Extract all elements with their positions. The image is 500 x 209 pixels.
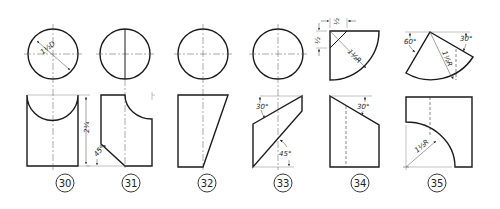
figure-label-35: 35 bbox=[431, 178, 444, 189]
drawing-sheet: 1½D 2¼ 30 45° 31 bbox=[0, 0, 500, 209]
figure-label-30: 30 bbox=[59, 178, 72, 189]
figure-31: 45° 31 bbox=[86, 29, 155, 192]
angle-right-dim-35: 30° bbox=[460, 35, 472, 43]
angle-bottom-dim-33: 45° bbox=[279, 150, 291, 158]
top-view-32 bbox=[174, 24, 232, 170]
front-view-35: 1½R bbox=[403, 97, 472, 170]
angle-left-dim-35: 60° bbox=[404, 38, 416, 46]
angle-dim-34: 30° bbox=[357, 103, 369, 111]
top-view-33 bbox=[249, 24, 307, 170]
figure-label-31: 31 bbox=[125, 178, 138, 189]
figure-35: 60° 30° 1½R 1½R 35 bbox=[403, 32, 473, 192]
figure-34: 1½R ½ ½ 30° 34 bbox=[314, 18, 379, 192]
figure-30: 1½D 2¼ 30 bbox=[24, 24, 91, 192]
offset-y-dim-34: ½ bbox=[314, 37, 322, 44]
height-dim-30: 2¼ bbox=[83, 122, 91, 133]
top-view-35: 60° 30° 1½R bbox=[404, 32, 473, 80]
top-view-30: 1½D bbox=[24, 24, 82, 170]
front-view-31: 45° bbox=[86, 92, 155, 166]
front-view-30: 2¼ bbox=[27, 95, 91, 166]
offset-x-dim-34: ½ bbox=[333, 18, 341, 25]
angle-dim-31: 45° bbox=[92, 144, 106, 159]
figure-label-32: 32 bbox=[201, 178, 214, 189]
figure-32: 32 bbox=[174, 24, 232, 192]
figure-label-34: 34 bbox=[354, 178, 367, 189]
figure-label-33: 33 bbox=[277, 178, 290, 189]
figure-33: 30° 45° 33 bbox=[249, 24, 307, 192]
angle-top-dim-33: 30° bbox=[256, 103, 268, 111]
radius-top-dim-35: 1½R bbox=[440, 50, 454, 68]
front-view-34: 30° bbox=[330, 96, 379, 167]
radius-front-dim-35: 1½R bbox=[413, 138, 431, 155]
top-view-34: 1½R ½ ½ bbox=[314, 18, 379, 80]
front-view-33: 30° 45° bbox=[253, 96, 302, 167]
